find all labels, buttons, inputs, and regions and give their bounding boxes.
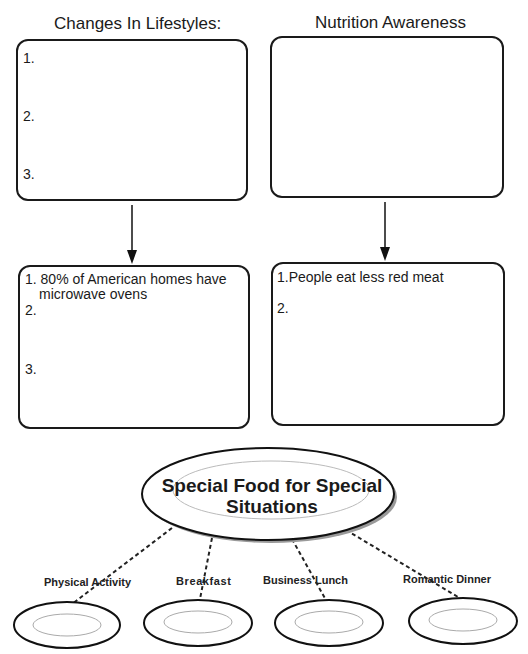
plate-romantic-dinner xyxy=(409,598,517,644)
plate-label-business-lunch: Business Lunch xyxy=(263,574,348,586)
plate-physical-activity xyxy=(14,602,120,648)
down-arrow-icon xyxy=(127,205,137,264)
plate-label-physical-activity: Physical Activity xyxy=(44,576,131,588)
plate-label-breakfast: Breakfast xyxy=(176,575,232,587)
plate-label-romantic-dinner: Romantic Dinner xyxy=(403,573,491,585)
center-topic-text: Special Food for Special Situations xyxy=(148,475,396,517)
plate-breakfast xyxy=(144,600,252,646)
down-arrow-icon xyxy=(380,202,390,261)
diagram-graphics xyxy=(0,0,528,654)
center-topic-line2: Situations xyxy=(148,496,396,517)
center-topic-line1: Special Food for Special xyxy=(148,475,396,496)
plate-business-lunch xyxy=(275,600,383,646)
